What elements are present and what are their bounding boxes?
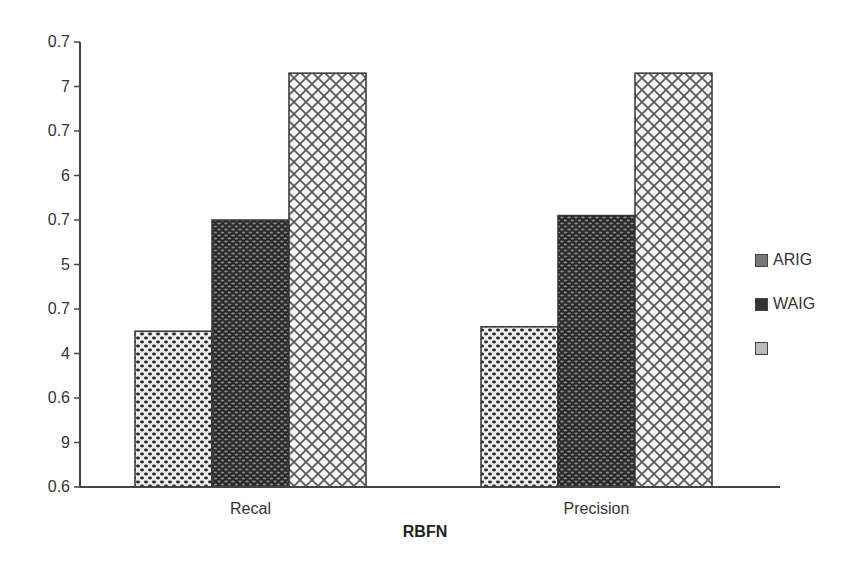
x-axis: RecalPrecision	[80, 487, 780, 517]
bar-chart: 0.690.640.750.760.770.7 RecalPrecision R…	[0, 0, 851, 583]
y-tick-label: 0.7	[48, 122, 70, 139]
legend-swatch-icon	[755, 254, 768, 267]
bar-waig-recal	[212, 220, 289, 487]
y-tick-label: 4	[61, 345, 70, 362]
y-tick-label: 5	[61, 256, 70, 273]
y-tick-label: 0.7	[48, 211, 70, 228]
legend: ARIGWAIG	[755, 252, 815, 384]
bar-series3-recal	[289, 73, 366, 487]
legend-label: WAIG	[773, 295, 815, 313]
legend-item: WAIG	[755, 296, 815, 312]
legend-item: ARIG	[755, 252, 815, 268]
legend-item	[755, 340, 815, 356]
y-tick-label: 0.7	[48, 33, 70, 50]
legend-swatch-icon	[755, 298, 768, 311]
y-tick-label: 0.7	[48, 300, 70, 317]
bar-series3-precision	[635, 73, 712, 487]
x-category-label: Recal	[230, 500, 271, 517]
legend-swatch-icon	[755, 342, 768, 355]
x-category-label: Precision	[564, 500, 630, 517]
y-tick-label: 9	[61, 434, 70, 451]
y-tick-label: 7	[61, 78, 70, 95]
legend-label: ARIG	[773, 251, 812, 269]
bars	[135, 73, 712, 487]
x-axis-title: RBFN	[403, 523, 447, 540]
y-tick-label: 0.6	[48, 478, 70, 495]
bar-waig-precision	[558, 216, 635, 487]
y-tick-label: 6	[61, 167, 70, 184]
y-tick-label: 0.6	[48, 389, 70, 406]
bar-arig-recal	[135, 331, 212, 487]
bar-arig-precision	[481, 327, 558, 487]
y-axis: 0.690.640.750.760.770.7	[48, 33, 80, 495]
